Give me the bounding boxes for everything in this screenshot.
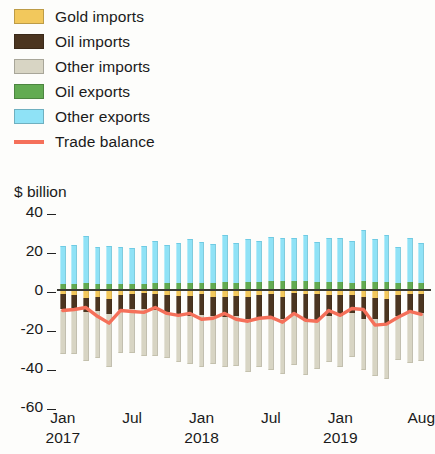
chart-legend: Gold importsOil importsOther importsOil … <box>14 4 155 154</box>
y-tick-mark <box>47 292 56 293</box>
gold-imports-swatch <box>14 9 44 24</box>
legend-item-trade-balance[interactable]: Trade balance <box>14 129 155 154</box>
x-tick-month: Jan <box>50 409 75 426</box>
x-tick-month: Aug <box>407 409 435 426</box>
legend-item-label: Oil exports <box>55 83 130 101</box>
legend-item-oil-imports[interactable]: Oil imports <box>14 29 155 54</box>
x-tick: Aug <box>407 408 435 428</box>
oil-exports-swatch <box>14 84 44 99</box>
oil-imports-swatch <box>14 34 44 49</box>
plot-area: 40200-20-40-60 <box>0 212 431 407</box>
x-tick-year: 2019 <box>323 428 357 448</box>
legend-item-other-exports[interactable]: Other exports <box>14 104 155 129</box>
y-tick-mark <box>47 370 56 371</box>
x-tick: Jan2017 <box>46 408 80 448</box>
y-tick-label: -40 <box>21 359 43 377</box>
y-tick-label: -60 <box>21 398 43 416</box>
other-imports-swatch <box>14 59 44 74</box>
trade-balance-line <box>57 212 427 407</box>
x-tick-month: Jan <box>189 409 214 426</box>
other-exports-swatch <box>14 109 44 124</box>
y-tick-mark <box>47 214 56 215</box>
x-axis-ticks: Jan2017JulJan2018JulJan2019Aug <box>57 408 431 454</box>
y-tick--40: -40 <box>21 359 56 377</box>
y-tick-label: 0 <box>34 281 43 299</box>
legend-item-label: Oil imports <box>55 33 130 51</box>
x-tick-year: 2017 <box>46 428 80 448</box>
legend-item-label: Other exports <box>55 108 150 126</box>
y-tick-label: -20 <box>21 320 43 338</box>
y-tick-label: 20 <box>26 242 43 260</box>
x-tick-month: Jul <box>261 409 281 426</box>
y-axis-title: $ billion <box>14 183 67 201</box>
trade-balance-polyline <box>63 308 421 326</box>
y-tick-mark <box>47 253 56 254</box>
x-tick-month: Jul <box>122 409 142 426</box>
legend-item-other-imports[interactable]: Other imports <box>14 54 155 79</box>
y-tick--20: -20 <box>21 320 56 338</box>
legend-item-label: Gold imports <box>55 8 144 26</box>
legend-item-gold-imports[interactable]: Gold imports <box>14 4 155 29</box>
x-tick-year: 2018 <box>184 428 218 448</box>
y-tick-20: 20 <box>26 242 56 260</box>
legend-item-label: Trade balance <box>55 133 155 151</box>
y-tick-40: 40 <box>26 203 56 221</box>
legend-item-oil-exports[interactable]: Oil exports <box>14 79 155 104</box>
x-tick-month: Jan <box>328 409 353 426</box>
x-tick: Jul <box>122 408 142 428</box>
x-tick: Jan2018 <box>184 408 218 448</box>
y-tick-label: 40 <box>26 203 43 221</box>
y-tick-0: 0 <box>34 281 56 299</box>
plot-canvas <box>57 212 431 407</box>
x-tick: Jul <box>261 408 281 428</box>
x-tick: Jan2019 <box>323 408 357 448</box>
y-axis-ticks: 40200-20-40-60 <box>0 212 56 407</box>
legend-item-label: Other imports <box>55 58 150 76</box>
y-tick-mark <box>47 331 56 332</box>
